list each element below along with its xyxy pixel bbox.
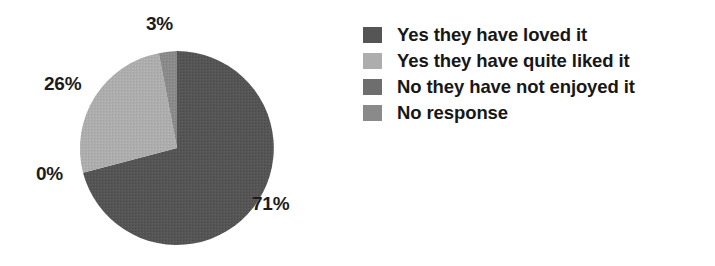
legend-item-label: Yes they have quite liked it [397,52,630,71]
legend-swatch-icon [363,53,382,69]
pie-label-quite-liked: 26% [44,74,81,93]
legend-swatch-icon [363,105,382,121]
pie-chart-graphic [0,0,350,266]
legend-item-loved: Yes they have loved it [363,22,708,48]
legend-swatch-icon [363,27,382,43]
legend-item-label: No response [397,104,508,123]
legend-item-not-enjoyed: No they have not enjoyed it [363,74,708,100]
pie-label-loved: 71% [252,194,289,213]
legend-item-no-response: No response [363,100,708,126]
legend-item-label: No they have not enjoyed it [397,78,635,97]
pie-label-not-enjoyed: 0% [36,164,63,183]
legend-item-label: Yes they have loved it [397,26,587,45]
pie-label-no-response: 3% [146,14,173,33]
legend-item-quite-liked: Yes they have quite liked it [363,48,708,74]
chart-legend: Yes they have loved it Yes they have qui… [363,22,708,126]
legend-swatch-icon [363,79,382,95]
pie-chart-plot-area: 3% 26% 0% 71% [0,0,350,266]
pie-chart-figure: 3% 26% 0% 71% Yes they have loved it Yes… [0,0,715,266]
